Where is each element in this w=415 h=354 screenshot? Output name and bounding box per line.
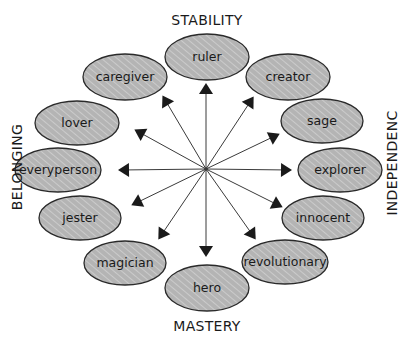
axis-label-independence: INDEPENDENC [384, 110, 400, 215]
node-label-everyperson: everyperson [19, 162, 97, 177]
arrowhead-icon-revolutionary [244, 226, 256, 239]
arrowhead-icon-caregiver [162, 95, 174, 108]
arrowhead-icon-creator [242, 96, 254, 109]
spoke-line-everyperson [121, 169, 206, 170]
archetype-node-magician: magician [84, 241, 166, 285]
arrowhead-icon-everyperson [118, 163, 129, 177]
spoke-line-jester [134, 169, 206, 204]
node-label-jester: jester [61, 210, 98, 225]
arrowhead-icon-innocent [270, 196, 283, 209]
archetype-node-caregiver: caregiver [83, 54, 167, 100]
node-label-explorer: explorer [314, 162, 366, 177]
archetype-diagram: rulercreatorsageexplorerinnocentrevoluti… [0, 0, 415, 354]
node-label-hero: hero [193, 280, 221, 295]
node-label-caregiver: caregiver [96, 69, 156, 84]
node-label-innocent: innocent [296, 210, 350, 225]
node-label-creator: creator [266, 69, 312, 84]
archetype-node-revolutionary: revolutionary [242, 240, 328, 284]
arrowhead-icon-lover [134, 129, 147, 141]
node-label-ruler: ruler [192, 49, 222, 64]
spoke-line-explorer [206, 169, 289, 170]
spoke-line-caregiver [164, 98, 206, 169]
spokes [118, 83, 292, 257]
archetype-node-everyperson: everyperson [15, 148, 101, 192]
spoke-line-lover [137, 131, 206, 169]
axis-label-mastery: MASTERY [173, 318, 241, 334]
node-label-magician: magician [96, 255, 153, 270]
archetype-node-innocent: innocent [282, 196, 364, 240]
spoke-line-magician [160, 169, 206, 237]
spoke-line-revolutionary [206, 169, 254, 237]
node-label-sage: sage [307, 113, 337, 128]
node-label-lover: lover [61, 115, 93, 130]
arrowhead-icon-magician [158, 226, 170, 239]
axis-label-belonging: BELONGING [9, 124, 25, 210]
archetype-node-jester: jester [39, 196, 121, 240]
arrowhead-icon-explorer [281, 163, 292, 177]
archetype-node-hero: hero [165, 265, 249, 311]
archetype-node-creator: creator [246, 54, 330, 100]
arrowhead-icon-ruler [199, 83, 213, 94]
archetype-node-lover: lover [35, 101, 119, 145]
node-label-revolutionary: revolutionary [243, 254, 327, 269]
spoke-line-innocent [206, 169, 280, 206]
archetype-node-ruler: ruler [165, 34, 249, 80]
archetype-node-explorer: explorer [298, 148, 382, 192]
arrowhead-icon-hero [199, 246, 213, 257]
archetype-node-sage: sage [281, 99, 363, 143]
axis-label-stability: STABILITY [171, 12, 243, 28]
